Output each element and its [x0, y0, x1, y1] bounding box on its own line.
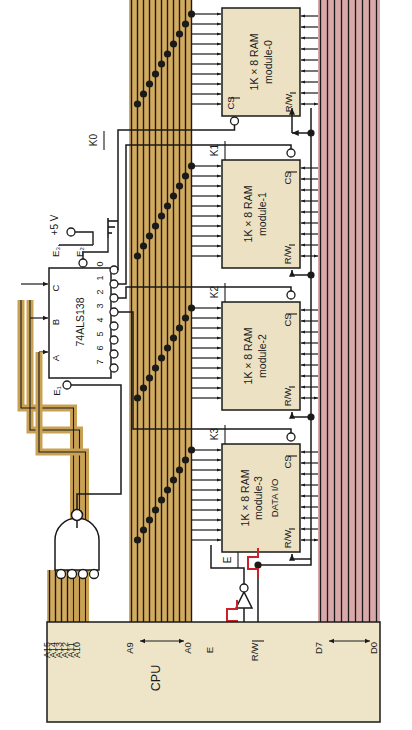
ram-module-0-title: 1K × 8 RAM — [248, 34, 260, 91]
ram-module-1-rw-pin: R/W — [282, 246, 293, 265]
cpu-pin-a0: A0 — [182, 642, 193, 654]
decoder-enable-e3: E₃ — [50, 247, 61, 257]
inverter-output-label: E — [222, 556, 233, 563]
address-bus-low — [129, 0, 192, 622]
ram-module-0-subtitle: module-0 — [262, 40, 274, 84]
ram-module-3-data-io-label: DATA I/O — [269, 479, 280, 518]
decoder-part-label: 74ALS138 — [74, 297, 86, 346]
ram-module-3-cs-pin: CS — [282, 455, 293, 468]
cpu-address-high-pin-labels: A15 A14 A13 A12 A11 A10 — [42, 642, 82, 658]
ram-module-0[interactable]: 1K × 8 RAM module-0 CS R/W — [192, 8, 318, 125]
ram-module-3-rw-pin: R/W — [282, 530, 293, 549]
cpu-pin-a9: A9 — [124, 642, 135, 654]
ram-module-2-rw-pin: R/W — [282, 388, 293, 407]
ram-module-2-title: 1K × 8 RAM — [242, 328, 254, 385]
decoder-enable-e1: E₁ — [51, 386, 62, 396]
k0-label: K0 — [88, 133, 99, 146]
svg-text:7: 7 — [95, 359, 105, 364]
k2-label-group: K2 — [209, 283, 225, 302]
supply-label: +5 V — [49, 214, 60, 235]
svg-text:2: 2 — [95, 289, 105, 294]
decoder-input-b: B — [50, 319, 61, 325]
svg-text:4: 4 — [95, 317, 105, 322]
k1-label-group: K1 — [209, 141, 225, 160]
k1-label: K1 — [209, 143, 220, 156]
svg-text:5: 5 — [95, 331, 105, 336]
data-bus — [318, 0, 380, 622]
ram-module-2-cs-pin: CS — [282, 313, 293, 326]
svg-text:0: 0 — [95, 261, 105, 266]
ram-module-3-subtitle: module-3 — [252, 476, 264, 520]
decoder-input-c: C — [50, 284, 61, 291]
ram-module-1-title: 1K × 8 RAM — [242, 186, 254, 243]
svg-text:3: 3 — [95, 303, 105, 308]
svg-text:6: 6 — [95, 345, 105, 350]
cpu-pin-rw: R/W — [249, 643, 260, 662]
cpu-pin-e: E — [204, 647, 215, 653]
k3-label: K3 — [209, 427, 220, 440]
ground-icon — [83, 218, 118, 259]
ram-module-3-title: 1K × 8 RAM — [239, 470, 251, 527]
ram-module-1[interactable]: 1K × 8 RAM module-1 CS R/W — [192, 149, 318, 268]
ram-module-2[interactable]: 1K × 8 RAM module-2 CS R/W — [192, 291, 318, 410]
memory-system-schematic: 1K × 8 RAM module-0 CS R/W 1K × 8 RAM mo… — [0, 0, 412, 730]
cpu-pin-d7: D7 — [313, 642, 324, 654]
schematic-canvas: 1K × 8 RAM module-0 CS R/W 1K × 8 RAM mo… — [0, 0, 412, 730]
ram-module-3[interactable]: 1K × 8 RAM module-3 CS R/W DATA I/O — [192, 433, 318, 552]
ram-module-1-cs-pin: CS — [282, 171, 293, 184]
svg-text:A10: A10 — [72, 642, 82, 658]
svg-text:1: 1 — [95, 275, 105, 280]
k3-label-group: K3 — [209, 425, 225, 444]
k0-label-group: K0 — [88, 131, 104, 150]
ram-module-2-subtitle: module-2 — [256, 334, 268, 378]
ram-module-1-subtitle: module-1 — [256, 192, 268, 236]
cpu-label: CPU — [149, 665, 163, 691]
cpu-pin-d0: D0 — [368, 642, 379, 654]
inverter-gate[interactable]: E — [211, 545, 252, 622]
k2-label: K2 — [209, 285, 220, 298]
decoder-input-a: A — [50, 354, 61, 361]
